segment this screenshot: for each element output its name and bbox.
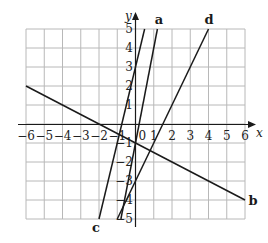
x-tick-label: −5 [35, 129, 53, 143]
line-label-a: a [155, 12, 164, 27]
y-axis-arrow-icon [132, 12, 139, 20]
x-tick-label: −2 [90, 129, 108, 143]
line-graph: x y −6−5−4−3−2−10123456−5−4−3−2−112345 a… [0, 0, 268, 243]
line-label-c: c [92, 220, 100, 235]
x-tick-label: 3 [186, 129, 194, 143]
x-axis-arrow-icon [248, 121, 256, 128]
y-tick-label: 3 [125, 60, 133, 74]
x-tick-label: 2 [168, 129, 176, 143]
x-tick-label: 0 [139, 129, 147, 143]
y-tick-label: 4 [125, 41, 133, 55]
x-tick-label: 4 [205, 129, 213, 143]
y-tick-label: 5 [125, 22, 133, 36]
x-tick-label: 5 [223, 129, 231, 143]
x-tick-label: −3 [72, 129, 90, 143]
y-axis-label: y [124, 9, 132, 23]
x-axis-label: x [256, 126, 263, 140]
x-tick-label: −6 [17, 129, 35, 143]
y-tick-label: −3 [115, 174, 133, 188]
line-label-d: d [204, 12, 213, 27]
x-tick-label: 6 [241, 129, 249, 143]
line-label-b: b [248, 193, 257, 208]
x-tick-label: −4 [54, 129, 72, 143]
